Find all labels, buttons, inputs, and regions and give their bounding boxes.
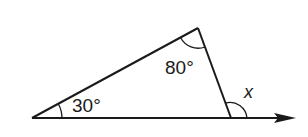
side-right (198, 28, 231, 118)
angle-label-exterior: x (243, 82, 254, 102)
angle-arc-left (58, 104, 62, 118)
triangle-diagram: 30° 80° x (0, 0, 308, 137)
angle-label-left: 30° (72, 95, 101, 116)
angle-label-top: 80° (165, 57, 194, 78)
